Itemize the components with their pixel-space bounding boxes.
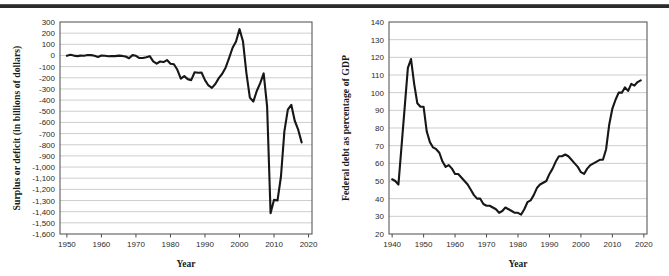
y-axis-title: Surplus or deficit (in billions of dolla… [11,46,23,211]
y-axis-tick-label: -800 [39,141,56,150]
x-axis-tick-label: 2000 [572,240,590,249]
y-axis-tick-label: 110 [371,71,384,80]
y-axis-tick-label: 120 [371,53,385,62]
y-axis-tick-label: 130 [371,36,385,45]
y-axis-tick-label: 80 [375,124,384,133]
y-axis-tick-label: 30 [375,212,384,221]
y-axis-tick-label: 100 [42,40,56,49]
x-axis-title: Year [177,259,197,269]
y-axis-tick-label: -1,500 [32,219,55,228]
y-axis-tick-label: -1,100 [32,174,55,183]
y-axis-tick-label: -1,600 [32,230,55,239]
y-axis-tick-label: 140 [371,18,385,27]
x-axis-tick-label: 1980 [162,240,180,249]
x-axis-tick-label: 1950 [58,240,76,249]
data-series-line [67,29,302,213]
y-axis-tick-label: 0 [51,51,56,60]
y-axis-tick-label: -1,200 [32,185,55,194]
x-axis-tick-label: 1970 [127,240,145,249]
x-axis-tick-label: 2010 [603,240,621,249]
x-axis-title: Year [509,259,529,269]
x-axis-tick-label: 1980 [509,240,527,249]
y-axis-tick-label: 90 [375,106,384,115]
y-axis-tick-label: -1,000 [32,163,55,172]
x-axis-tick-label: 1990 [196,240,214,249]
x-axis-tick-label: 1950 [415,240,433,249]
y-axis-tick-label: -300 [39,85,56,94]
chart-federal-debt-percentage-gdp: 1401301201101009080706050403020194019501… [335,10,669,276]
y-axis-tick-label: -1,300 [32,197,55,206]
y-axis-tick-label: -500 [39,107,56,116]
y-axis-tick-label: -100 [39,63,56,72]
surplus-deficit-chart-svg: 3002001000-100-200-300-400-500-600-700-8… [0,10,335,276]
chart-federal-surplus-deficit: 3002001000-100-200-300-400-500-600-700-8… [0,10,335,276]
x-axis-tick-label: 1990 [541,240,559,249]
y-axis-tick-label: 200 [42,29,56,38]
x-axis-tick-label: 1970 [478,240,496,249]
page-top-rule [0,4,669,8]
y-axis-tick-label: 20 [375,230,384,239]
y-axis-tick-label: -1,400 [32,208,55,217]
figure-page: 3002001000-100-200-300-400-500-600-700-8… [0,0,669,276]
y-axis-tick-label: -600 [39,118,56,127]
y-axis-tick-label: 60 [375,159,384,168]
data-series-line [392,59,641,214]
x-axis-tick-label: 2020 [635,240,653,249]
x-axis-tick-label: 1960 [93,240,111,249]
y-axis-tick-label: -200 [39,74,56,83]
x-axis-tick-label: 1940 [383,240,401,249]
y-axis-tick-label: -900 [39,152,56,161]
x-axis-tick-label: 2020 [300,240,318,249]
y-axis-title: Federal debt as percentage of GDP [340,55,351,201]
x-axis-tick-label: 1960 [446,240,464,249]
y-axis-tick-label: -700 [39,130,56,139]
x-axis-tick-label: 2010 [265,240,283,249]
y-axis-tick-label: 100 [371,89,385,98]
y-axis-tick-label: 300 [42,18,56,27]
federal-debt-chart-svg: 1401301201101009080706050403020194019501… [335,10,669,276]
y-axis-tick-label: 70 [375,142,384,151]
x-axis-tick-label: 2000 [231,240,249,249]
y-axis-tick-label: 40 [375,195,384,204]
y-axis-tick-label: -400 [39,96,56,105]
y-axis-tick-label: 50 [375,177,384,186]
